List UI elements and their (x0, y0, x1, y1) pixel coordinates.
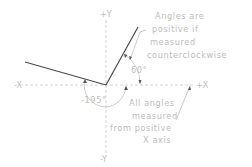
label-neg-x: -X (14, 81, 22, 90)
note-measured-line4: X axis (143, 135, 171, 145)
note-measured-line2: measured (132, 111, 178, 121)
ray-60-degrees (106, 27, 138, 85)
label-pos-y: +Y (100, 10, 112, 19)
note-positive-line2: positive if (152, 24, 199, 34)
note-positive-line1: Angles are (155, 11, 204, 21)
arrowhead-icon (124, 86, 128, 90)
note-measured-line3: from positive (110, 123, 172, 133)
arrowhead-icon (139, 80, 142, 84)
note-measured-line1: All angles (129, 98, 175, 108)
note-positive-line4: counterclockwise (147, 50, 227, 60)
label-angle-60: 60° (131, 65, 147, 75)
ray-neg-195-degrees (25, 62, 106, 85)
angle-diagram: +Y -Y +X -X 60° -195° Angles are positiv… (0, 0, 252, 167)
label-pos-x: +X (196, 81, 209, 90)
leader-measured-note (176, 86, 190, 120)
label-neg-y: -Y (100, 155, 107, 164)
label-angle-neg-195: -195° (81, 95, 107, 105)
leader-positive-note (130, 30, 146, 60)
note-positive-line3: measured (150, 37, 196, 47)
